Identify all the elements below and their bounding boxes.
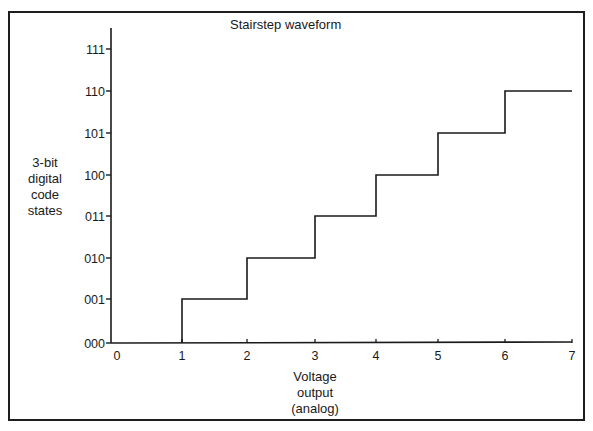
x-tick-label: 6: [502, 349, 509, 363]
y-tick-label: 100: [84, 169, 105, 183]
y-tick-label: 101: [84, 127, 105, 141]
plot-area: 000001010011100101110111 01234567: [0, 0, 593, 431]
x-tick-label: 2: [244, 349, 251, 363]
y-tick-label: 011: [85, 210, 105, 224]
y-tick-label: 110: [85, 85, 105, 99]
y-tick-label: 001: [84, 293, 105, 307]
y-tick-label: 010: [84, 252, 105, 266]
x-tick-label: 7: [569, 349, 576, 363]
y-axis-ticks: 000001010011100101110111: [84, 43, 111, 351]
x-tick-label: 5: [435, 349, 442, 363]
y-tick-label: 111: [86, 43, 105, 57]
x-tick-label: 3: [312, 349, 319, 363]
y-tick-label: 000: [84, 337, 105, 351]
x-tick-label: 1: [179, 349, 186, 363]
x-tick-label: 4: [373, 349, 380, 363]
x-axis-line: [111, 342, 572, 343]
stairstep-line: [182, 91, 572, 343]
axes: [111, 28, 572, 343]
x-tick-label: 0: [114, 349, 121, 363]
